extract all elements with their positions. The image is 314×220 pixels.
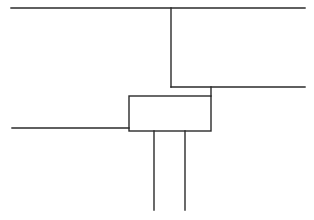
diagram-canvas: [0, 0, 314, 220]
central-box: [129, 96, 211, 131]
